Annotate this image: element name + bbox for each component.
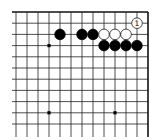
star-point	[113, 111, 116, 114]
black-stone[interactable]	[99, 40, 110, 51]
black-stone[interactable]	[132, 40, 143, 51]
white-stone[interactable]	[99, 29, 110, 40]
black-stone-icon	[55, 29, 66, 40]
move-number-label: 1	[135, 19, 140, 28]
black-stone-icon	[88, 29, 99, 40]
star-point	[47, 111, 50, 114]
go-board[interactable]: 1	[0, 0, 157, 140]
white-stone[interactable]	[110, 29, 121, 40]
star-point	[47, 44, 50, 47]
white-stone-icon	[110, 29, 121, 40]
white-stone-icon	[99, 29, 110, 40]
white-stone[interactable]: 1	[132, 18, 143, 29]
black-stone[interactable]	[121, 40, 132, 51]
black-stone[interactable]	[77, 29, 88, 40]
black-stone-icon	[99, 40, 110, 51]
black-stone-icon	[110, 40, 121, 51]
black-stone[interactable]	[88, 29, 99, 40]
white-stone[interactable]	[121, 29, 132, 40]
black-stone[interactable]	[55, 29, 66, 40]
black-stone-icon	[132, 40, 143, 51]
black-stone-icon	[77, 29, 88, 40]
black-stone[interactable]	[110, 40, 121, 51]
white-stone-icon	[121, 29, 132, 40]
black-stone-icon	[121, 40, 132, 51]
